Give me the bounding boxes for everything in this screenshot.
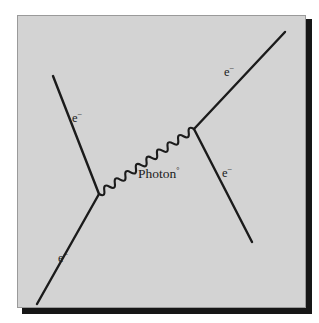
- label-outgoing-electron-upper-right: e−: [224, 66, 234, 79]
- label-mediator-photon: Photon°: [138, 167, 179, 181]
- leg-mediator-photon: [99, 128, 194, 195]
- label-superscript: °: [176, 166, 179, 175]
- label-incoming-electron-lower-left: e−: [58, 252, 68, 265]
- leg-outgoing-lower-right: [194, 129, 252, 242]
- label-incoming-electron-upper-left: e−: [72, 112, 82, 125]
- label-superscript: −: [228, 164, 233, 174]
- label-base: Photon: [138, 166, 176, 181]
- label-superscript: −: [64, 249, 69, 259]
- leg-outgoing-upper-right: [194, 32, 285, 129]
- leg-incoming-upper-left: [53, 76, 99, 194]
- label-superscript: −: [230, 63, 235, 73]
- feynman-diagram-figure: e− e− e− e− Photon°: [0, 0, 319, 323]
- label-superscript: −: [78, 109, 83, 119]
- label-outgoing-electron-lower-right: e−: [222, 167, 232, 180]
